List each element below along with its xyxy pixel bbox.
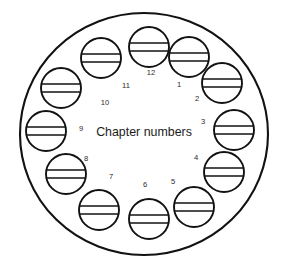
hour-number-5: 5 <box>171 177 175 186</box>
hour-number-4: 4 <box>194 153 198 162</box>
token-circle-outline <box>169 37 209 77</box>
token-circle-3 <box>214 110 254 150</box>
token-circle-6 <box>129 199 169 239</box>
hour-number-11: 11 <box>122 81 130 90</box>
hour-number-6: 6 <box>143 180 147 189</box>
token-circle-outline <box>81 38 121 78</box>
token-circle-12 <box>129 27 169 67</box>
token-circle-1 <box>169 37 209 77</box>
token-circle-outline <box>129 199 169 239</box>
clock-diagram: 121234567891011 Chapter numbers <box>0 0 288 267</box>
token-circle-outline <box>174 187 214 227</box>
token-circle-11 <box>81 38 121 78</box>
center-caption: Chapter numbers <box>96 125 192 139</box>
hour-number-1: 1 <box>177 80 181 89</box>
hour-number-9: 9 <box>79 124 83 133</box>
token-circle-outline <box>129 27 169 67</box>
token-circle-outline <box>202 63 242 103</box>
token-circle-outline <box>46 154 86 194</box>
hour-number-10: 10 <box>101 98 109 107</box>
token-circle-2 <box>202 63 242 103</box>
clock-face-svg: 121234567891011 Chapter numbers <box>0 0 288 267</box>
hour-number-8: 8 <box>84 154 88 163</box>
hour-number-12: 12 <box>147 68 155 77</box>
token-circle-8 <box>46 154 86 194</box>
token-circle-outline <box>79 190 119 230</box>
token-circle-outline <box>41 68 81 108</box>
token-circle-9 <box>26 111 66 151</box>
token-circle-10 <box>41 68 81 108</box>
hour-number-3: 3 <box>201 117 205 126</box>
hour-number-7: 7 <box>109 172 113 181</box>
token-circle-5 <box>174 187 214 227</box>
token-circle-4 <box>204 152 244 192</box>
hour-number-2: 2 <box>195 94 199 103</box>
token-circle-outline <box>204 152 244 192</box>
token-circle-outline <box>26 111 66 151</box>
token-circle-7 <box>79 190 119 230</box>
token-circle-outline <box>214 110 254 150</box>
